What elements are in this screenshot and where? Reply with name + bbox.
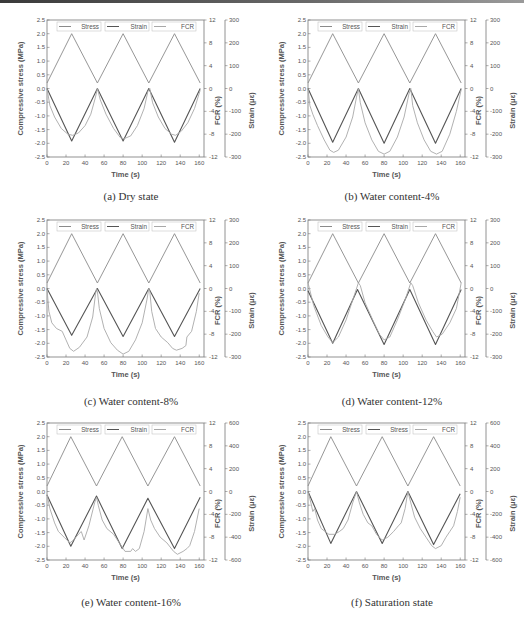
series-stress	[308, 234, 461, 283]
x-tick-label: 100	[137, 360, 148, 366]
x-tick-label: 20	[324, 360, 331, 366]
legend-label: FCR	[442, 23, 455, 30]
strain-axis-label: Strain (με)	[508, 92, 517, 129]
fcr-tick-label: 0	[209, 286, 213, 292]
series-strain	[308, 492, 460, 545]
x-tick-label: 20	[63, 160, 70, 166]
x-tick-label: 20	[324, 563, 331, 569]
legend-label: Stress	[81, 223, 99, 230]
fcr-tick-label: 12	[470, 17, 477, 23]
x-axis-label: Time (s)	[111, 170, 140, 179]
fcr-axis-label: FCR (%)	[213, 95, 222, 125]
series-fcr	[47, 289, 199, 355]
fcr-tick-label: -8	[470, 534, 476, 540]
left-tick-label: 1.5	[298, 244, 307, 250]
fcr-tick-label: 4	[209, 466, 213, 472]
fcr-tick-label: 12	[209, 420, 216, 426]
left-tick-label: 1.0	[37, 461, 46, 467]
x-tick-label: 60	[362, 360, 369, 366]
strain-tick-label: -200	[229, 131, 242, 137]
strain-tick-label: -100	[229, 308, 242, 314]
x-tick-label: 20	[63, 360, 70, 366]
left-tick-label: -1.5	[35, 127, 46, 133]
left-tick-label: 1.5	[37, 447, 46, 453]
x-tick-label: 100	[137, 563, 148, 569]
x-tick-label: 40	[343, 360, 350, 366]
left-tick-label: -2.5	[35, 557, 46, 563]
x-axis-label: Time (s)	[372, 370, 401, 379]
left-tick-label: 0.0	[37, 489, 46, 495]
panel-b: -2.5-2.0-1.5-1.0-0.50.00.51.01.52.02.5-1…	[261, 5, 523, 210]
left-tick-label: -2.5	[296, 557, 307, 563]
x-tick-label: 120	[156, 563, 167, 569]
strain-tick-label: 100	[229, 263, 240, 269]
legend-label: Stress	[342, 23, 360, 30]
x-tick-label: 160	[455, 160, 466, 166]
x-tick-label: 120	[417, 563, 428, 569]
legend-label: FCR	[181, 23, 194, 30]
legend-label: Stress	[342, 223, 360, 230]
x-tick-label: 140	[175, 360, 186, 366]
series-strain	[47, 289, 200, 337]
fcr-tick-label: -12	[209, 557, 218, 563]
left-tick-label: -1.0	[296, 516, 307, 522]
x-axis-label: Time (s)	[372, 170, 401, 179]
fcr-tick-label: 12	[470, 217, 477, 223]
strain-tick-label: 300	[229, 217, 240, 223]
panel-e: -2.5-2.0-1.5-1.0-0.50.00.51.01.52.02.5-1…	[0, 408, 262, 613]
left-tick-label: 0.5	[37, 72, 46, 78]
fcr-tick-label: 0	[470, 286, 474, 292]
x-tick-label: 0	[45, 160, 49, 166]
left-tick-label: -0.5	[35, 99, 46, 105]
chart-f: -2.5-2.0-1.5-1.0-0.50.00.51.01.52.02.5-1…	[261, 408, 523, 588]
x-tick-label: 100	[398, 160, 409, 166]
series-strain	[308, 89, 461, 144]
legend-label: Stress	[81, 426, 99, 433]
strain-tick-label: 200	[490, 240, 501, 246]
left-tick-label: -1.0	[296, 313, 307, 319]
left-tick-label: -1.5	[35, 530, 46, 536]
fcr-tick-label: 4	[470, 263, 474, 269]
x-tick-label: 160	[194, 160, 205, 166]
left-tick-label: 1.5	[298, 447, 307, 453]
legend-label: FCR	[181, 223, 194, 230]
strain-tick-label: -200	[229, 511, 242, 517]
caption-a: (a) Dry state	[0, 190, 262, 202]
series-stress	[308, 34, 461, 83]
x-axis-label: Time (s)	[111, 573, 140, 582]
left-tick-label: 2.5	[298, 217, 307, 223]
strain-tick-label: -200	[490, 511, 503, 517]
chart-a: -2.5-2.0-1.5-1.0-0.50.00.51.01.52.02.5-1…	[0, 5, 262, 185]
panel-d: -2.5-2.0-1.5-1.0-0.50.00.51.01.52.02.5-1…	[261, 205, 523, 410]
x-tick-label: 60	[362, 160, 369, 166]
x-tick-label: 60	[362, 563, 369, 569]
legend-label: Strain	[131, 426, 148, 433]
fcr-axis-label: FCR (%)	[474, 295, 483, 325]
x-tick-label: 20	[63, 563, 70, 569]
x-tick-label: 160	[194, 360, 205, 366]
strain-tick-label: 600	[229, 420, 240, 426]
left-axis-label: Compressive stress (MPa)	[16, 41, 25, 135]
chart-e: -2.5-2.0-1.5-1.0-0.50.00.51.01.52.02.5-1…	[0, 408, 262, 588]
x-tick-label: 160	[455, 563, 466, 569]
strain-axis-label: Strain (με)	[508, 292, 517, 329]
strain-tick-label: -300	[490, 154, 503, 160]
x-tick-label: 20	[324, 160, 331, 166]
strain-tick-label: -200	[490, 331, 503, 337]
strain-tick-label: -300	[229, 154, 242, 160]
x-tick-label: 120	[156, 160, 167, 166]
x-tick-label: 120	[156, 360, 167, 366]
series-stress	[47, 34, 200, 83]
x-tick-label: 60	[101, 360, 108, 366]
x-tick-label: 120	[417, 160, 428, 166]
strain-tick-label: 300	[490, 17, 501, 23]
x-tick-label: 140	[436, 563, 447, 569]
x-axis-label: Time (s)	[372, 573, 401, 582]
strain-tick-label: -400	[490, 534, 503, 540]
strain-tick-label: 300	[229, 17, 240, 23]
strain-tick-label: 200	[229, 40, 240, 46]
left-tick-label: 1.5	[298, 44, 307, 50]
x-tick-label: 0	[45, 360, 49, 366]
strain-tick-label: 600	[490, 420, 501, 426]
strain-tick-label: -100	[229, 108, 242, 114]
